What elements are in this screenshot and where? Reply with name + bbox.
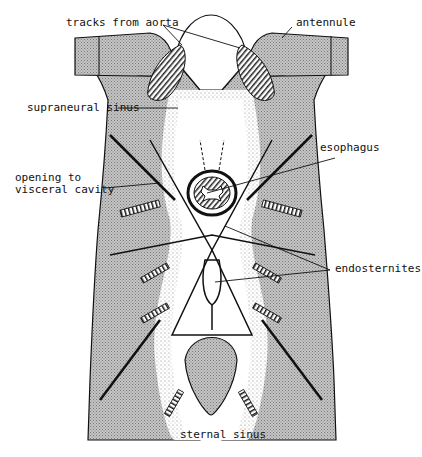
label-opening-to-visceral-cavity: opening to visceral cavity xyxy=(15,172,114,196)
label-antennule: antennule xyxy=(296,17,356,29)
label-sternal-sinus: sternal sinus xyxy=(180,429,266,441)
label-endosternites: endosternites xyxy=(335,263,421,275)
anatomy-figure: tracks from aorta antennule supraneural … xyxy=(0,0,422,457)
label-tracks-from-aorta: tracks from aorta xyxy=(66,17,179,29)
anatomy-drawing xyxy=(0,0,422,457)
label-supraneural-sinus: supraneural sinus xyxy=(27,102,140,114)
label-esophagus: esophagus xyxy=(320,142,380,154)
